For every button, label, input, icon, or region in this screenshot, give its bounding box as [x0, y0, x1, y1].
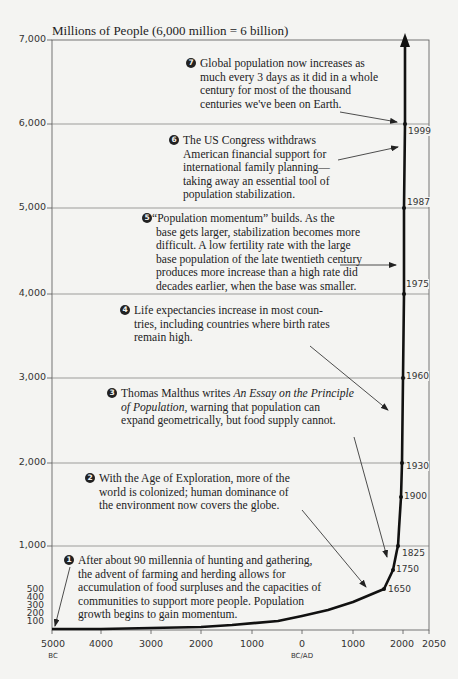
number-badge-3: 3 — [107, 388, 117, 398]
annotation-1-line: growth begins to gain momentum. — [78, 608, 321, 622]
x-tick-1000ad: 1000 — [333, 638, 373, 649]
annotation-6-line: taking away an essential tool of — [183, 175, 330, 189]
annotation-2-line: With the Age of Exploration, more of the — [99, 472, 290, 486]
book-title: An Essay on the Principle — [233, 387, 353, 400]
y-tick-5000: 5,000 — [2, 201, 46, 212]
x-tick-0: 0 — [282, 638, 322, 649]
annotation-3-text: Thomas Malthus writes — [121, 387, 233, 400]
annotation-5-line: base population of the late twentieth ce… — [156, 253, 362, 267]
annotation-2-line: the environment now covers the globe. — [99, 499, 290, 513]
year-label-1750: 1750 — [396, 564, 419, 574]
year-label-1987: 1987 — [407, 197, 430, 207]
annotation-1-line: the advent of farming and herding allows… — [78, 568, 321, 582]
year-label-1650: 1650 — [388, 584, 411, 594]
annotation-4-line: tries, including countries where birth r… — [134, 318, 330, 332]
annotation-5-line: decades earlier, when the base was small… — [156, 280, 362, 294]
annotation-1: 1 After about 90 millennia of hunting an… — [78, 554, 321, 622]
y-axis-title: Millions of People (6,000 million = 6 bi… — [52, 23, 288, 39]
annotation-6-line: population stabilization. — [183, 188, 330, 202]
annotation-1-line: After about 90 millennia of hunting and … — [78, 554, 321, 568]
annotation-6-line: international family planning— — [183, 161, 330, 175]
annotation-5: 5 “Population momentum” builds. As the b… — [156, 212, 362, 293]
number-badge-2: 2 — [85, 473, 95, 483]
annotation-1-line: accumulation of food surpluses and the c… — [78, 581, 321, 595]
x-sub-bc: BC — [33, 652, 73, 660]
annotation-7: 7 Global population now increases as muc… — [200, 57, 378, 111]
year-label-1825: 1825 — [402, 548, 425, 558]
annotation-5-line: produces more increase than a high rate … — [156, 266, 362, 280]
x-sub-bcad: BC/AD — [282, 652, 322, 660]
annotation-3-text: , warning that population can — [184, 401, 320, 414]
x-tick-1000bc: 1000 — [232, 638, 272, 649]
annotation-6-line: The US Congress withdraws — [183, 134, 330, 148]
year-label-1975: 1975 — [406, 279, 429, 289]
annotation-1-line: communities to support more people. Popu… — [78, 595, 321, 609]
annotation-4: 4 Life expectancies increase in most cou… — [134, 304, 330, 345]
annotation-7-line: much every 3 days as it did in a whole — [200, 71, 378, 85]
number-badge-5: 5 — [142, 213, 152, 223]
number-badge-4: 4 — [120, 305, 130, 315]
x-tick-4000bc: 4000 — [81, 638, 121, 649]
x-tick-5000bc: 5000 — [33, 638, 73, 649]
y-tick-1000: 1,000 — [2, 539, 46, 550]
annotation-7-line: Global population now increases as — [200, 57, 378, 71]
annotation-2-line: world is colonized; human dominance of — [99, 486, 290, 500]
year-label-1930: 1930 — [406, 461, 429, 471]
x-tick-3000bc: 3000 — [131, 638, 171, 649]
book-title: of Population — [121, 401, 184, 414]
annotation-6-line: American financial support for — [183, 148, 330, 162]
y-tick-3000: 3,000 — [2, 371, 46, 382]
y-ticks — [47, 40, 52, 546]
y-tick-6000: 6,000 — [2, 117, 46, 128]
number-badge-1: 1 — [64, 555, 74, 565]
annotation-7-line: centuries we've been on Earth. — [200, 98, 378, 112]
year-label-1900: 1900 — [404, 491, 427, 501]
y-tick-100: 100 — [4, 617, 44, 626]
x-tick-2050: 2050 — [414, 638, 454, 649]
annotation-3: 3 Thomas Malthus writes An Essay on the … — [121, 387, 354, 428]
annotation-2: 2 With the Age of Exploration, more of t… — [99, 472, 290, 513]
annotation-6: 6 The US Congress withdraws American fin… — [183, 134, 330, 202]
number-badge-6: 6 — [169, 135, 179, 145]
annotation-5-line: base gets larger, stabilization becomes … — [156, 226, 362, 240]
annotation-7-line: century for most of the thousand — [200, 84, 378, 98]
number-badge-7: 7 — [186, 58, 196, 68]
year-label-1999: 1999 — [408, 126, 431, 136]
annotation-5-line: “Population momentum” builds. As the — [152, 212, 362, 226]
year-label-1960: 1960 — [406, 371, 429, 381]
annotation-4-line: remain high. — [134, 331, 330, 345]
y-tick-2000: 2,000 — [2, 456, 46, 467]
y-tick-7000: 7,000 — [2, 33, 46, 44]
x-tick-2000bc: 2000 — [181, 638, 221, 649]
y-tick-4000: 4,000 — [2, 287, 46, 298]
x-ticks — [52, 630, 429, 634]
annotation-5-line: difficult. A low fertility rate with the… — [156, 239, 362, 253]
annotation-4-line: Life expectancies increase in most coun- — [134, 304, 330, 318]
annotation-3-text: expand geometrically, but food supply ca… — [121, 414, 354, 428]
